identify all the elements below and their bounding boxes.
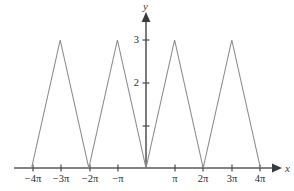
- x-tick-label-4pi: 4π: [255, 174, 266, 185]
- plot-canvas: [0, 0, 294, 191]
- x-axis-arrowhead: [272, 164, 282, 173]
- y-axis-label: y: [143, 1, 148, 12]
- y-tick-label-3: 3: [129, 35, 139, 46]
- x-tick-label-negpi: −π: [112, 174, 123, 185]
- y-axis-arrowhead: [142, 12, 151, 22]
- graph-figure: y x −4π −3π −2π −π π 2π 3π 4π 2 3: [0, 0, 294, 191]
- x-tick-label-3pi: 3π: [227, 174, 238, 185]
- x-tick-label-pi: π: [172, 174, 177, 185]
- x-tick-label-2pi: 2π: [198, 174, 209, 185]
- x-tick-label-neg3pi: −3π: [53, 174, 69, 185]
- y-tick-label-2: 2: [129, 78, 139, 89]
- x-tick-label-neg4pi: −4π: [25, 174, 41, 185]
- x-tick-label-neg2pi: −2π: [82, 174, 98, 185]
- x-axis-label: x: [285, 163, 290, 174]
